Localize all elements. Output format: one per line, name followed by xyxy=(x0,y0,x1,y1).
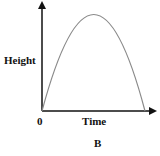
trajectory-diagram xyxy=(0,0,160,156)
y-axis-label: Height xyxy=(4,55,36,66)
height-curve xyxy=(42,15,145,112)
x-axis-label: Time xyxy=(82,116,106,127)
origin-label: 0 xyxy=(37,116,43,127)
panel-label: B xyxy=(94,138,101,149)
